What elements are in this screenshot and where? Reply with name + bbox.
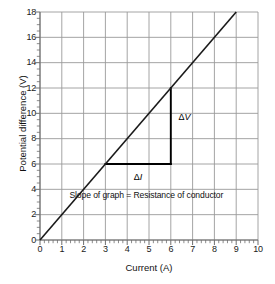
- slope-note-annotation: Slope of graph = Resistance of conductor: [69, 190, 223, 200]
- x-axis-tick-label: 9: [226, 245, 246, 254]
- y-axis-tick-label: 16: [12, 33, 36, 42]
- delta-i-annotation: ΔI: [134, 172, 143, 182]
- y-axis-tick-label: 12: [12, 84, 36, 93]
- variable-symbol-i: I: [140, 172, 143, 182]
- delta-v-annotation: ΔV: [178, 112, 190, 122]
- x-axis-tick-label: 8: [204, 245, 224, 254]
- y-axis-tick-label: 2: [12, 210, 36, 219]
- y-axis-tick-label: 0: [12, 236, 36, 245]
- x-axis-tick-label: 2: [74, 245, 94, 254]
- x-axis-tick-label: 4: [117, 245, 137, 254]
- x-axis-tick-label: 1: [52, 245, 72, 254]
- x-axis-tick-label: 0: [30, 245, 50, 254]
- y-axis-tick-label: 18: [12, 8, 36, 17]
- data-line: [40, 12, 236, 240]
- plot-area: [40, 12, 258, 240]
- x-axis-tick-label: 5: [139, 245, 159, 254]
- y-axis-tick-label: 10: [12, 109, 36, 118]
- y-axis-tick-labels: 024681012141618: [8, 0, 36, 284]
- y-axis-tick-label: 14: [12, 58, 36, 67]
- y-axis-tick-label: 6: [12, 160, 36, 169]
- y-axis-tick-label: 8: [12, 134, 36, 143]
- variable-symbol-v: V: [184, 112, 190, 122]
- plot-graphics: [40, 12, 258, 240]
- x-axis-tick-label: 7: [183, 245, 203, 254]
- x-axis-tick-label: 6: [161, 245, 181, 254]
- chart-figure: Potential difference (V) 024681012141618…: [0, 0, 275, 284]
- y-axis-tick-label: 4: [12, 185, 36, 194]
- x-axis-tick-label: 10: [248, 245, 268, 254]
- x-axis-tick-labels: 012345678910: [0, 245, 275, 259]
- x-axis-title: Current (A): [40, 262, 258, 273]
- x-axis-tick-label: 3: [95, 245, 115, 254]
